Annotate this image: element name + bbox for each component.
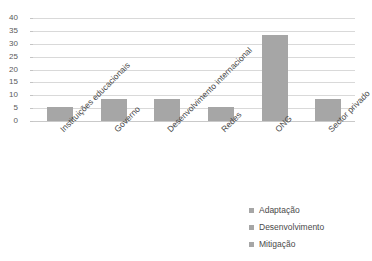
legend-swatch-icon-desenvolvimento: [249, 225, 254, 230]
ytick-label-20: 20: [0, 66, 18, 74]
legend-label-mitigacao: Mitigação: [259, 240, 295, 249]
ytick-label-10: 10: [0, 91, 18, 99]
ytick-label-40: 40: [0, 14, 18, 22]
legend: Adaptação Desenvolvimento Mitigação: [249, 203, 359, 254]
ytick-label-30: 30: [0, 40, 18, 48]
ytick-label-15: 15: [0, 78, 18, 86]
legend-label-adaptacao: Adaptação: [259, 206, 300, 215]
legend-swatch-icon-adaptacao: [249, 208, 254, 213]
bar-ong: [262, 35, 288, 121]
legend-swatch-icon-mitigacao: [249, 242, 254, 247]
ytick-label-25: 25: [0, 53, 18, 61]
legend-item-adaptacao[interactable]: Adaptação: [249, 203, 359, 217]
ytick-label-35: 35: [0, 27, 18, 35]
ytick-label-0: 0: [0, 117, 18, 125]
ytick-label-5: 5: [0, 104, 18, 112]
legend-item-mitigacao[interactable]: Mitigação: [249, 237, 359, 251]
legend-item-desenvolvimento[interactable]: Desenvolvimento: [249, 220, 359, 234]
legend-label-desenvolvimento: Desenvolvimento: [259, 223, 324, 232]
